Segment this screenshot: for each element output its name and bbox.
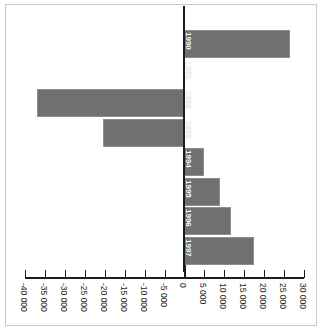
x-tick--40000: [25, 270, 26, 278]
x-tick-30000: [304, 270, 305, 278]
x-tick-label-20000: 20 000: [258, 283, 268, 309]
bar-label-1991: 1991: [184, 62, 192, 80]
bar-1993: [103, 119, 184, 147]
x-tick--20000: [105, 270, 106, 278]
bar-1997: [184, 237, 253, 265]
x-tick-label-25000: 25 000: [278, 283, 288, 309]
x-tick-label--20000: -20 000: [99, 283, 109, 312]
x-tick-5000: [204, 270, 205, 278]
x-tick-label--10000: -10 000: [139, 283, 149, 312]
x-tick--15000: [125, 270, 126, 278]
x-tick-10000: [224, 270, 225, 278]
x-tick-label-0: 0: [178, 283, 188, 288]
bar-label-1993: 1993: [184, 121, 192, 139]
x-tick-label--30000: -30 000: [59, 283, 69, 312]
bar-1992: [37, 89, 184, 117]
x-tick--35000: [45, 270, 46, 278]
x-tick--30000: [65, 270, 66, 278]
x-tick-label-5000: 5 000: [198, 283, 208, 304]
x-tick--25000: [85, 270, 86, 278]
x-tick-label--35000: -35 000: [39, 283, 49, 312]
x-tick-label--5000: -5 000: [159, 283, 169, 307]
x-tick--5000: [165, 270, 166, 278]
x-tick-15000: [244, 270, 245, 278]
x-tick-20000: [264, 270, 265, 278]
x-tick-label--25000: -25 000: [79, 283, 89, 312]
bar-1990: [184, 30, 289, 58]
bar-label-1994: 1994: [184, 150, 192, 168]
bar-label-1996: 1996: [184, 209, 192, 227]
x-tick-25000: [284, 270, 285, 278]
bar-label-1995: 1995: [184, 180, 192, 198]
bar-label-1990: 1990: [184, 32, 192, 50]
x-tick-label--40000: -40 000: [19, 283, 29, 312]
bar-label-1992: 1992: [184, 91, 192, 109]
x-tick-label-15000: 15 000: [238, 283, 248, 309]
bar-label-1997: 1997: [184, 239, 192, 257]
bar-chart: 19901991199219931994199519961997 -40 000…: [0, 0, 323, 334]
x-tick-label-10000: 10 000: [218, 283, 228, 309]
x-tick-label-30000: 30 000: [298, 283, 308, 309]
x-tick--10000: [145, 270, 146, 278]
x-tick-label--15000: -15 000: [119, 283, 129, 312]
